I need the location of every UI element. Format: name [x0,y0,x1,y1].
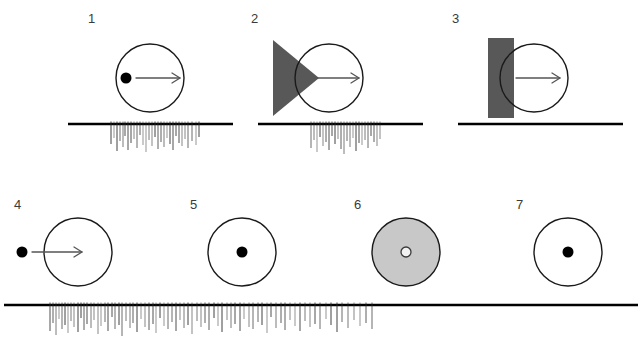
stimulus-dot [121,73,132,84]
spike-train-2 [258,118,423,154]
spike-group [111,122,199,153]
hollow-stimulus-dot [401,247,411,257]
stimulus-dot [237,247,248,258]
spike-train-1 [68,118,233,154]
bar-occluder [488,38,514,118]
motion-arrow-icon [32,247,82,257]
stimulus-response-figure: 1234567 [0,0,641,340]
triangle-occluder [273,40,319,116]
spike-group [50,303,372,337]
motion-arrow-icon [516,73,560,83]
spike-group [311,122,380,155]
triangle-occluder-with-circle-moving-right [241,20,381,130]
spike-train-bottom-row [4,296,638,338]
stimulus-dot [17,247,28,258]
bar-occluder-with-circle-moving-right [442,20,582,130]
dot-inside-circle-moving-right [78,20,218,130]
spike-train-3 [458,118,623,154]
motion-arrow-icon [136,73,180,83]
motion-arrow-icon [315,73,359,83]
stimulus-dot [563,247,574,258]
